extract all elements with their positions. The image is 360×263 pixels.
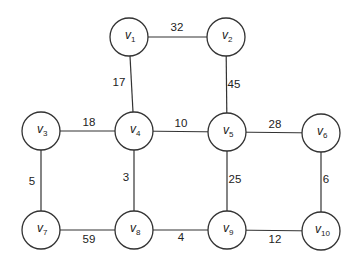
edge-weight-label: 12 (269, 233, 282, 245)
node-v1: v1 (110, 18, 148, 56)
node-v10: v10 (302, 212, 340, 250)
node-v9: v9 (208, 211, 246, 249)
edge-weight-label: 4 (178, 231, 185, 243)
graph-diagram: 3217451810285325659412 v1v2v3v4v5v6v7v8v… (0, 0, 360, 263)
edge-weight-label: 10 (175, 117, 188, 129)
edge-weight-label: 45 (228, 78, 241, 90)
edge-weight-label: 28 (269, 118, 282, 130)
node-v2: v2 (207, 18, 245, 56)
node-v7: v7 (22, 211, 60, 249)
edge-weight-label: 32 (171, 21, 184, 33)
node-v6: v6 (302, 114, 340, 152)
edge-weight-label: 18 (83, 116, 96, 128)
edge-weight-label: 6 (323, 173, 329, 185)
edge-weight-label: 3 (123, 171, 129, 183)
edge-weight-label: 59 (83, 233, 96, 245)
edge-weight-label: 17 (113, 76, 126, 88)
edge-weight-label: 25 (229, 173, 242, 185)
node-v8: v8 (115, 211, 153, 249)
nodes-layer: v1v2v3v4v5v6v7v8v9v10 (22, 18, 340, 250)
node-v3: v3 (22, 112, 60, 150)
node-v5: v5 (208, 113, 246, 151)
node-v4: v4 (115, 112, 153, 150)
edge-weight-label: 5 (29, 175, 35, 187)
edges-layer: 3217451810285325659412 (29, 21, 329, 245)
